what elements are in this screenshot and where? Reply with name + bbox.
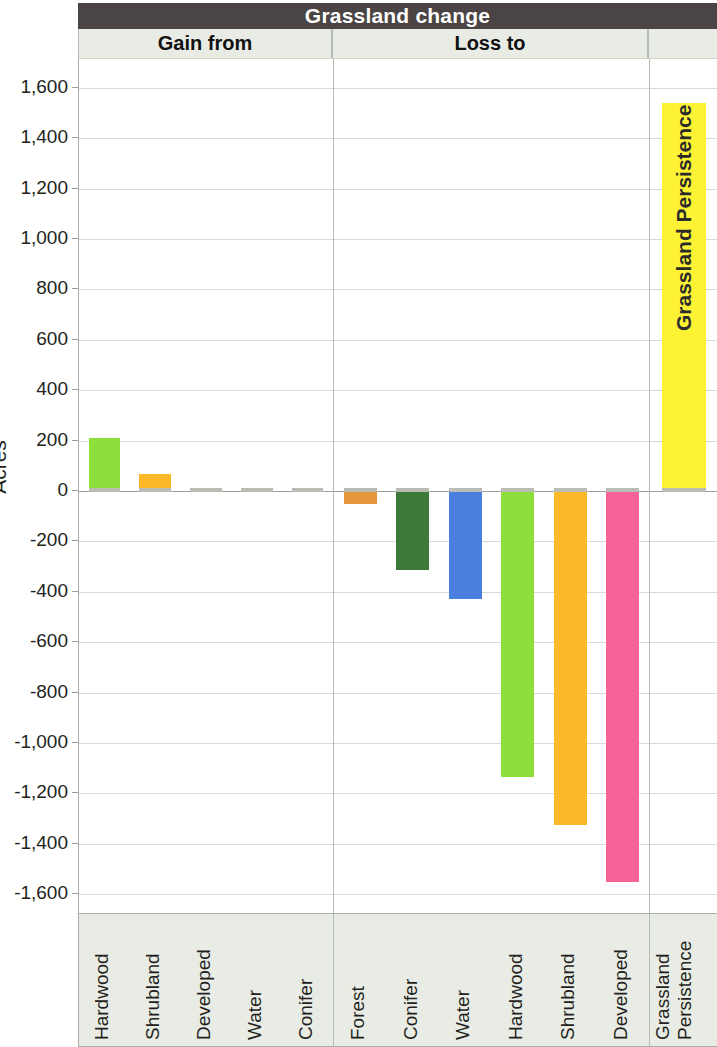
- y-axis-tick-label: -400: [0, 580, 68, 602]
- y-axis-tick-label: 1,200: [0, 177, 68, 199]
- bar: [344, 491, 377, 504]
- x-axis-label-persistence: GrasslandPersistence: [652, 941, 696, 1040]
- x-axis-label: Shrubland: [557, 953, 579, 1040]
- y-axis-tick-label: -1,400: [0, 832, 68, 854]
- bar-baseline-cap: [89, 488, 120, 492]
- y-axis-tick-label: -800: [0, 681, 68, 703]
- gridline: [79, 239, 717, 240]
- gridline: [79, 340, 717, 341]
- gridline: [79, 138, 717, 139]
- persistence-bar-label: Grassland Persistence: [672, 263, 696, 331]
- panel-divider: [649, 914, 650, 1046]
- chart-root: Grassland change Gain from Loss to Acres…: [0, 0, 717, 1047]
- x-axis-label: Conifer: [400, 979, 422, 1040]
- y-axis-tick-label: 1,600: [0, 76, 68, 98]
- x-axis-labels: HardwoodShrublandDevelopedWaterConiferFo…: [78, 913, 717, 1047]
- x-axis-label: Developed: [610, 949, 632, 1040]
- panel-divider: [649, 59, 650, 913]
- gridline: [79, 894, 717, 895]
- bar: [449, 491, 482, 599]
- y-axis-tick-label: 1,400: [0, 126, 68, 148]
- bar: [396, 491, 429, 570]
- y-axis-tick-label: 0: [0, 479, 68, 501]
- y-axis-tick-label: 1,000: [0, 227, 68, 249]
- y-axis-tick-label: 800: [0, 277, 68, 299]
- gridline: [79, 289, 717, 290]
- bar: [554, 491, 587, 825]
- plot-area: Grassland Persistence: [78, 58, 717, 913]
- y-axis-tick-label: -1,600: [0, 882, 68, 904]
- y-axis-tick-label: 400: [0, 378, 68, 400]
- y-axis-tick-label: -200: [0, 529, 68, 551]
- gridline: [79, 88, 717, 89]
- bar-baseline-cap: [292, 488, 323, 492]
- gridline: [79, 390, 717, 391]
- panel-divider: [333, 59, 334, 913]
- x-axis-label-line: Grassland: [652, 941, 674, 1040]
- x-axis-label: Forest: [347, 986, 369, 1040]
- bar-baseline-cap: [241, 488, 272, 492]
- panel-divider: [333, 914, 334, 1046]
- y-axis-tick-label: -1,000: [0, 731, 68, 753]
- bar: [89, 438, 120, 491]
- y-axis-tick-label: -600: [0, 630, 68, 652]
- y-axis-tick-label: 200: [0, 429, 68, 451]
- bar-baseline-cap: [396, 488, 429, 492]
- y-axis-tick-label: 600: [0, 328, 68, 350]
- bar-baseline-cap: [139, 488, 170, 492]
- bar: [501, 491, 534, 777]
- gridline: [79, 441, 717, 442]
- x-axis-label: Conifer: [295, 979, 317, 1040]
- x-axis-label: Hardwood: [505, 953, 527, 1040]
- bar: [606, 491, 639, 882]
- bar-baseline-cap: [449, 488, 482, 492]
- bar-baseline-cap: [606, 488, 639, 492]
- bar-baseline-cap: [662, 488, 706, 492]
- x-axis-label: Shrubland: [142, 953, 164, 1040]
- bar-baseline-cap: [190, 488, 221, 492]
- x-axis-label: Water: [452, 990, 474, 1040]
- bar-baseline-cap: [344, 488, 377, 492]
- bar-baseline-cap: [554, 488, 587, 492]
- x-axis-label: Hardwood: [91, 953, 113, 1040]
- bar-baseline-cap: [501, 488, 534, 492]
- x-axis-label: Water: [244, 990, 266, 1040]
- x-axis-label: Developed: [193, 949, 215, 1040]
- gridline: [79, 189, 717, 190]
- y-axis-tick-label: -1,200: [0, 781, 68, 803]
- x-axis-label-line: Persistence: [674, 941, 696, 1040]
